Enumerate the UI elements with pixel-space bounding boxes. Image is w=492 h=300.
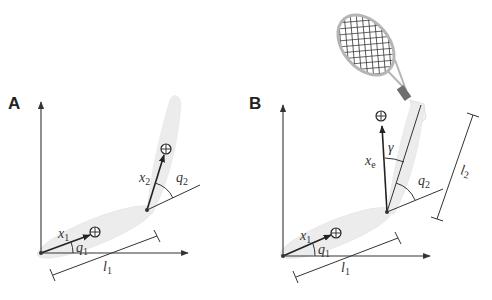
center-of-mass-e-icon <box>376 111 386 121</box>
elbow-joint <box>385 210 389 214</box>
shoulder-joint <box>281 254 285 258</box>
label-q2: q2 <box>418 173 430 190</box>
xe-vector <box>382 126 387 212</box>
arm-model-diagram: A <box>0 0 492 300</box>
panel-a: A <box>8 94 200 281</box>
panel-b: B <box>249 4 479 283</box>
shoulder-joint <box>39 251 43 255</box>
label-x1: x1 <box>57 226 69 243</box>
label-l2: l2 <box>459 162 471 180</box>
forearm-segment <box>387 102 424 214</box>
label-l1: l1 <box>341 260 350 277</box>
panel-label-b: B <box>249 94 261 113</box>
l2-dimension-line <box>437 115 473 219</box>
elbow-joint <box>145 208 149 212</box>
l1-tick-end <box>154 230 160 242</box>
label-l1: l1 <box>103 259 112 276</box>
label-xe: xe <box>364 153 376 170</box>
panel-label-a: A <box>8 94 20 113</box>
label-x2: x2 <box>138 170 150 187</box>
tennis-racket-icon <box>327 4 412 101</box>
label-gamma: γ <box>388 140 394 155</box>
center-of-mass-1-icon <box>331 228 341 238</box>
center-of-mass-1-icon <box>90 227 100 237</box>
l1-tick-end <box>395 232 401 244</box>
label-q2: q2 <box>176 170 188 187</box>
center-of-mass-2-icon <box>161 144 171 154</box>
